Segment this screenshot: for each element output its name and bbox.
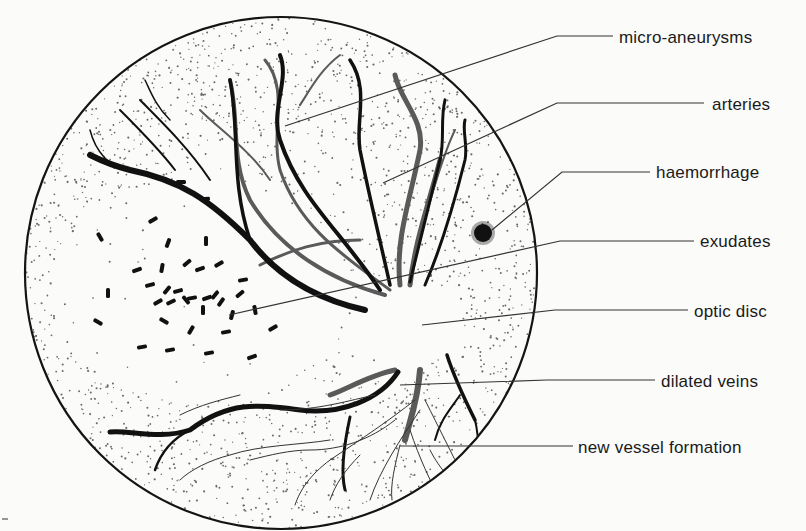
- optic-disc: [355, 282, 455, 362]
- label-dilated-veins: dilated veins: [661, 372, 758, 392]
- leader-line-optic-disc: [422, 310, 688, 325]
- leader-line-dilated-veins: [400, 380, 655, 385]
- label-arteries: arteries: [712, 95, 770, 115]
- leader-line-haemorrhage: [492, 172, 650, 230]
- label-optic-disc: optic disc: [694, 302, 767, 322]
- label-micro-aneurysms: micro-aneurysms: [619, 28, 752, 48]
- arteries: [200, 55, 455, 440]
- label-new-vessel-formation: new vessel formation: [578, 438, 742, 458]
- haemorrhage-blot: [471, 221, 495, 245]
- label-exudates: exudates: [700, 232, 771, 252]
- label-haemorrhage: haemorrhage: [656, 163, 759, 183]
- exudates: [93, 180, 279, 361]
